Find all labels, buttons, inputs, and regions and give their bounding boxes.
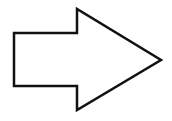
right-arrow-icon <box>0 0 172 121</box>
diagram-canvas <box>0 0 172 121</box>
arrow-shape <box>14 9 161 110</box>
